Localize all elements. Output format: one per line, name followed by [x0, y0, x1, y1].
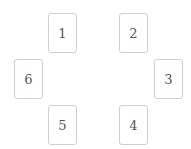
card-1[interactable]: 1 — [48, 13, 77, 53]
card-5[interactable]: 5 — [48, 105, 77, 145]
card-3[interactable]: 3 — [154, 59, 183, 99]
card-6[interactable]: 6 — [14, 59, 43, 99]
card-label: 4 — [129, 118, 137, 133]
card-label: 1 — [58, 26, 66, 41]
card-label: 2 — [129, 26, 137, 41]
card-label: 6 — [24, 72, 32, 87]
card-ring: 1 2 3 4 5 6 — [0, 0, 191, 149]
card-label: 3 — [164, 72, 172, 87]
card-2[interactable]: 2 — [119, 13, 148, 53]
card-4[interactable]: 4 — [119, 105, 148, 145]
card-label: 5 — [58, 118, 66, 133]
